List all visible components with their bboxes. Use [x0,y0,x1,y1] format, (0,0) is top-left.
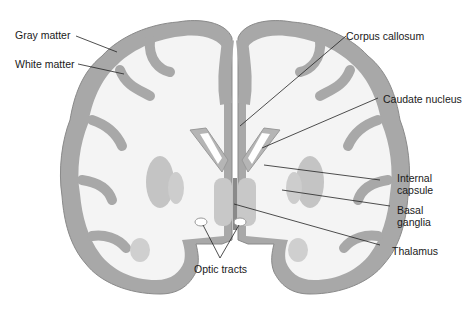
label-optic-tracts: Optic tracts [194,263,247,275]
label-corpus-callosum: Corpus callosum [346,30,424,42]
label-basal-ganglia-line2: ganglia [397,216,431,228]
label-caudate-nucleus: Caudate nucleus [383,93,462,105]
brain-coronal-diagram: Gray matter White matter Corpus callosum… [0,0,475,313]
right-hemisphere [238,21,410,294]
label-thalamus: Thalamus [392,245,438,257]
label-white-matter: White matter [15,58,75,70]
label-internal-capsule: Internal capsule [397,172,433,196]
label-basal-ganglia: Basal ganglia [397,204,431,228]
label-gray-matter: Gray matter [15,29,70,41]
label-internal-capsule-line2: capsule [397,184,433,196]
label-basal-ganglia-line1: Basal [397,204,431,216]
label-internal-capsule-line1: Internal [397,172,433,184]
